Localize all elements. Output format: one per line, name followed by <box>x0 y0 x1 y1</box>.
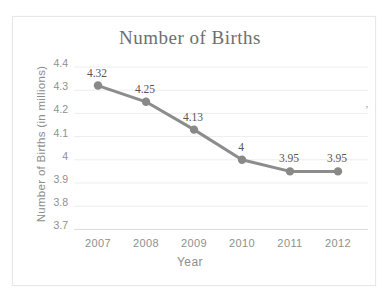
data-point-label: 4.25 <box>135 83 155 95</box>
data-point-label: 4 <box>238 141 244 153</box>
y-tick-label: 4.3 <box>53 80 68 92</box>
series-line <box>98 86 338 172</box>
x-tick-label: 2007 <box>85 237 111 249</box>
data-point-marker <box>142 98 150 106</box>
data-point-label: 4.32 <box>87 67 107 79</box>
y-tick-label: 4.4 <box>53 57 68 69</box>
x-axis-title: Year <box>60 255 320 269</box>
y-tick-label: 4.2 <box>53 103 68 115</box>
data-point-label: 3.95 <box>279 152 299 164</box>
x-tick-label: 2011 <box>277 237 302 249</box>
y-tick-label: 3.7 <box>53 219 68 231</box>
data-point-label: 3.95 <box>327 152 347 164</box>
y-tick-label: 4.1 <box>53 127 68 139</box>
data-point-label: 4.13 <box>183 111 203 123</box>
data-point-marker <box>334 167 342 175</box>
chart-figure: Number of Births Number of Births (in mi… <box>0 0 382 293</box>
y-tick-label: 3.8 <box>53 196 68 208</box>
data-point-marker <box>190 125 198 133</box>
y-tick-label: 3.9 <box>53 173 68 185</box>
data-point-marker <box>286 167 294 175</box>
x-tick-label: 2012 <box>325 237 351 249</box>
data-point-marker <box>94 81 102 89</box>
plot-area: 4.44.34.24.143.93.83.7200720082009201020… <box>0 0 382 293</box>
data-point-marker <box>238 156 246 164</box>
y-tick-label: 4 <box>62 150 68 162</box>
scan-artifact-mark: ’ <box>365 103 369 115</box>
x-tick-label: 2008 <box>133 237 159 249</box>
x-tick-label: 2010 <box>229 237 255 249</box>
x-tick-label: 2009 <box>181 237 207 249</box>
